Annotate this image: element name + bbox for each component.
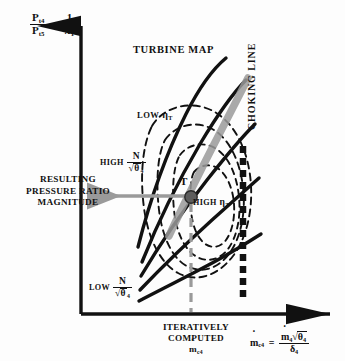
high-speed-radicand: θ	[134, 163, 139, 173]
low-speed-annotation: LOW N √θ4	[89, 277, 132, 299]
y-axis-pressure-ratio-fraction: Pt4 Pt5	[30, 12, 46, 37]
x-axis-corrected-flow-fraction: m4√θ4 δ4	[279, 331, 309, 355]
turbine-map-figure: Pt4 Pt5 = 1 πT TURBINE MAP LOW ηT HIGH η…	[0, 0, 345, 361]
low-speed-radicand: θ	[121, 288, 126, 298]
x-rhs-radicand-sub: 4	[303, 336, 306, 343]
high-speed-radicand-sub: 4	[141, 168, 144, 174]
resulting-pr-line2: PRESSURE RATIO	[20, 186, 116, 198]
x-rhs-den-sub: 4	[295, 348, 298, 355]
resulting-pr-line3: MAGNITUDE	[20, 197, 116, 209]
y-den-symbol: P	[32, 24, 39, 36]
y-den-sub: t5	[39, 30, 45, 37]
iterative-mdot-symbol: m	[189, 344, 197, 355]
iterative-mdot-sub: c4	[197, 349, 203, 355]
y-num-sub: t4	[39, 17, 45, 24]
resulting-pressure-ratio-annotation: RESULTING PRESSURE RATIO MAGNITUDE	[20, 174, 116, 209]
low-speed-numerator: N	[113, 277, 132, 288]
low-efficiency-sub: T	[168, 114, 173, 121]
high-efficiency-sub: T	[225, 202, 229, 208]
operating-point-label: T	[180, 176, 187, 188]
low-speed-radicand-sub: 4	[127, 293, 130, 299]
high-speed-prefix: HIGH	[100, 158, 124, 167]
x-axis-equals: =	[267, 338, 277, 349]
y-axis-equals: =	[49, 19, 59, 31]
low-efficiency-annotation: LOW ηT	[137, 110, 173, 121]
iterative-line1: ITERATIVELY	[144, 322, 248, 333]
high-efficiency-annotation: HIGH ηT	[193, 198, 230, 208]
y-axis-label: Pt4 Pt5 = 1 πT	[30, 12, 77, 37]
high-speed-annotation: HIGH N √θ4	[100, 152, 146, 174]
y-num-symbol: P	[32, 11, 39, 23]
high-speed-numerator: N	[127, 152, 146, 163]
low-speed-fraction: N √θ4	[113, 277, 132, 299]
page-title: TURBINE MAP	[133, 44, 214, 55]
x-lhs-symbol: m	[250, 338, 258, 349]
iteratively-computed-annotation: ITERATIVELY COMPUTED mc4	[144, 322, 248, 356]
resulting-pr-line1: RESULTING	[20, 174, 116, 186]
y-axis-inverse-pi-fraction: 1 πT	[62, 12, 77, 37]
y-rhs-den-sub: T	[70, 30, 75, 37]
x-lhs-sub: c4	[258, 341, 264, 348]
high-efficiency-prefix: HIGH	[193, 198, 217, 207]
x-axis-label: mc4 = m4√θ4 δ4	[250, 331, 309, 355]
choking-line-label: CHOKING LINE	[247, 43, 258, 130]
low-efficiency-prefix: LOW	[137, 110, 159, 120]
high-speed-fraction: N √θ4	[127, 152, 146, 174]
x-rhs-num-symbol: m	[281, 332, 289, 343]
iterative-line2: COMPUTED	[144, 333, 248, 344]
x-rhs-num-sub: 4	[289, 336, 292, 343]
low-speed-prefix: LOW	[89, 283, 110, 292]
